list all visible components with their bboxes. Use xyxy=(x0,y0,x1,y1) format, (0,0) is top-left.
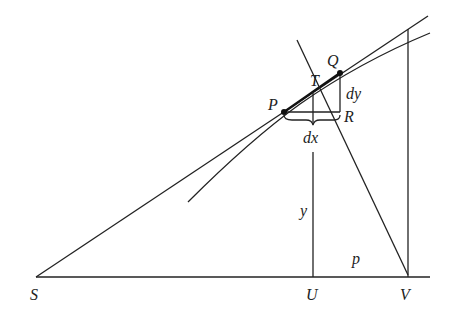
label-p-subnormal: p xyxy=(351,250,360,268)
label-dy: dy xyxy=(346,85,362,103)
label-dx: dx xyxy=(303,129,318,146)
curve xyxy=(188,33,430,202)
point-q-dot xyxy=(337,70,343,76)
label-s: S xyxy=(30,286,38,303)
tangent-line xyxy=(36,16,428,277)
label-q: Q xyxy=(327,52,339,69)
label-y: y xyxy=(298,202,308,220)
label-v: V xyxy=(400,286,412,303)
diagram: S U V P Q T R dy dx y p xyxy=(0,0,449,311)
label-t: T xyxy=(310,72,320,89)
label-r: R xyxy=(343,108,354,125)
label-u: U xyxy=(306,286,319,303)
point-p-dot xyxy=(281,109,287,115)
label-p: P xyxy=(267,96,278,113)
diagram-canvas: S U V P Q T R dy dx y p xyxy=(0,0,449,311)
dx-brace xyxy=(284,115,340,125)
